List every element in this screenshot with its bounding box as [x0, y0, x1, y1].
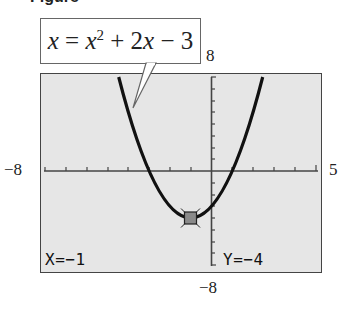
x-axis: [44, 165, 318, 171]
parabola-curve: [119, 77, 263, 218]
callout-pointer: [133, 63, 156, 108]
x-readout: X=−1: [45, 250, 86, 269]
y-readout: Y=−4: [223, 250, 264, 269]
